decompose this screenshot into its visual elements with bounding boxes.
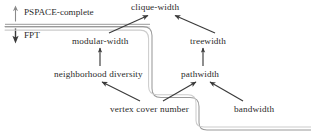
up-arrow-icon [13,6,18,22]
node-pathwidth: pathwidth [181,70,219,79]
region-label-pspace-complete: PSPACE-complete [24,8,94,17]
node-bandwidth: bandwidth [234,105,274,114]
diagram-canvas [0,0,311,136]
node-neighborhood-diversity: neighborhood diversity [54,70,143,79]
node-vertex-cover-number: vertex cover number [110,105,189,114]
node-clique-width: clique-width [131,3,179,12]
edge-group [100,16,243,102]
edge-treewidth-to-clique-width [175,16,215,34]
down-arrow-icon [12,29,18,44]
region-label-fpt: FPT [24,31,40,40]
parameter-hierarchy-diagram: PSPACE-complete FPT clique-width modular… [0,0,311,136]
edge-vertex-cover-number-to-pathwidth [163,82,196,101]
edge-bandwidth-to-pathwidth [210,82,243,101]
node-treewidth: treewidth [190,37,226,46]
complexity-boundary [5,27,311,130]
edge-vertex-cover-number-to-neighborhood-diversity [102,82,140,101]
node-modular-width: modular-width [72,37,128,46]
